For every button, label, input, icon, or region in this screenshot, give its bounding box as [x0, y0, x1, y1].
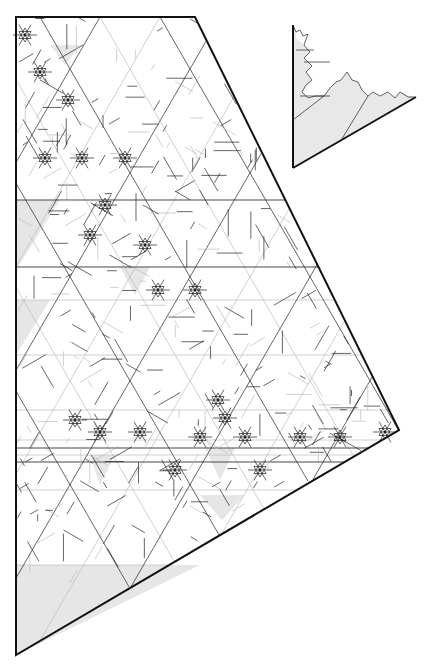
- detail-crease: [38, 467, 48, 484]
- detail-crease: [45, 59, 51, 62]
- detail-crease: [109, 169, 117, 174]
- detail-crease: [17, 123, 22, 132]
- vertex-dot: [89, 234, 92, 237]
- detail-crease: [241, 395, 255, 418]
- detail-crease: [80, 121, 93, 129]
- star-triangle: [69, 417, 81, 428]
- detail-crease: [183, 501, 187, 508]
- detail-crease: [103, 482, 106, 488]
- detail-crease: [52, 503, 63, 509]
- detail-crease: [65, 214, 86, 226]
- star-triangle: [62, 97, 74, 108]
- detail-crease: [66, 135, 71, 143]
- vertex-dot: [39, 71, 42, 74]
- vertex-dot: [157, 289, 160, 292]
- star-triangle: [152, 287, 164, 298]
- detail-crease: [205, 168, 218, 191]
- detail-crease: [270, 455, 280, 461]
- koch-edge-segment: [300, 30, 303, 36]
- detail-crease: [34, 533, 55, 545]
- detail-crease: [60, 310, 71, 316]
- vertex-dot: [139, 431, 142, 434]
- detail-crease: [28, 541, 39, 561]
- detail-crease: [154, 391, 160, 395]
- star-triangle: [254, 467, 266, 478]
- detail-crease: [167, 142, 170, 148]
- detail-crease: [94, 414, 97, 420]
- star-triangle: [34, 65, 46, 76]
- star-triangle: [99, 198, 111, 209]
- vertex-dot: [24, 34, 27, 37]
- detail-crease: [163, 125, 167, 132]
- detail-crease: [226, 480, 232, 490]
- star-triangle: [84, 232, 96, 243]
- detail-crease: [79, 18, 86, 22]
- detail-crease: [203, 512, 212, 517]
- detail-crease: [29, 161, 38, 176]
- star-triangle: [239, 430, 251, 441]
- detail-crease: [324, 364, 330, 367]
- vertex-dot: [224, 417, 227, 420]
- detail-crease: [256, 225, 269, 248]
- detail-crease: [102, 334, 109, 338]
- shaded-region: [50, 45, 80, 65]
- detail-crease: [309, 373, 323, 397]
- detail-crease: [287, 262, 290, 268]
- vertex-dot: [217, 399, 220, 402]
- detail-crease: [191, 537, 198, 541]
- detail-crease: [284, 227, 297, 250]
- detail-crease: [99, 155, 105, 165]
- detail-crease: [103, 322, 123, 334]
- detail-crease: [141, 185, 147, 196]
- koch-star-cluster: [128, 422, 152, 443]
- shaded-region: [16, 300, 50, 355]
- detail-crease: [95, 546, 102, 559]
- koch-star-cluster: [328, 427, 352, 448]
- vertex-dot: [194, 289, 197, 292]
- koch-star-cluster: [188, 427, 212, 448]
- detail-crease: [64, 142, 68, 149]
- star-triangle: [119, 155, 131, 166]
- vertex-dot: [199, 436, 202, 439]
- detail-crease: [72, 111, 80, 126]
- detail-crease: [217, 305, 230, 328]
- detail-crease: [175, 487, 183, 501]
- star-triangle: [39, 155, 51, 166]
- detail-crease: [56, 129, 66, 146]
- detail-crease: [307, 293, 316, 309]
- detail-crease: [67, 502, 74, 515]
- detail-crease: [41, 453, 54, 460]
- detail-crease: [154, 100, 160, 110]
- star-triangle: [189, 287, 201, 298]
- vertex-dot: [174, 469, 177, 472]
- koch-star-cluster: [133, 235, 157, 256]
- vertex-dot: [99, 431, 102, 434]
- star-triangle: [194, 434, 206, 445]
- detail-crease: [189, 454, 199, 471]
- star-triangle: [19, 28, 31, 39]
- detail-crease: [235, 387, 239, 394]
- detail-crease: [25, 482, 36, 502]
- inset-fractal-triangle: [293, 25, 416, 168]
- star-triangle: [254, 463, 266, 474]
- diagonal-crease: [160, 17, 398, 429]
- detail-crease: [129, 467, 138, 483]
- detail-crease: [175, 191, 190, 200]
- vertex-dot: [299, 436, 302, 439]
- detail-crease: [198, 476, 221, 489]
- detail-crease: [107, 548, 118, 567]
- detail-crease: [165, 257, 171, 260]
- detail-crease: [90, 358, 105, 367]
- detail-crease: [173, 306, 191, 316]
- detail-crease: [236, 343, 249, 366]
- detail-crease: [92, 99, 99, 103]
- detail-crease: [263, 379, 274, 386]
- detail-crease: [310, 323, 320, 329]
- star-triangle: [94, 425, 106, 436]
- star-triangle: [34, 69, 46, 80]
- detail-crease: [145, 428, 157, 448]
- detail-crease: [155, 482, 163, 486]
- vertex-dot: [339, 436, 342, 439]
- diagonal-crease: [16, 183, 219, 535]
- detail-crease: [312, 405, 323, 424]
